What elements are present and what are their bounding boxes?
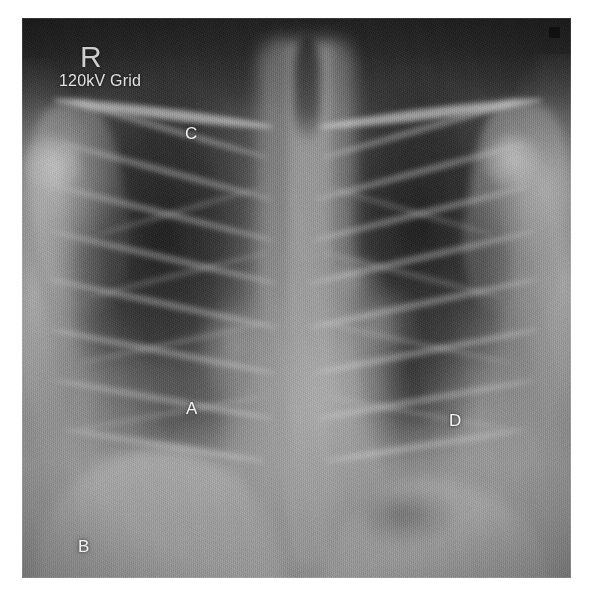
exposure-technique-label: 120kV Grid xyxy=(59,72,141,90)
gastric-bubble xyxy=(354,488,458,544)
exposure-index-corner-marker xyxy=(549,27,560,38)
annotation-label-c: C xyxy=(185,125,197,142)
right-hilum xyxy=(198,304,272,390)
screenshot-root: R 120kV Grid A B C D xyxy=(0,0,593,599)
annotation-label-d: D xyxy=(449,412,461,429)
annotation-label-b: B xyxy=(78,538,89,555)
trachea xyxy=(294,36,320,144)
side-marker-right: R xyxy=(80,40,102,74)
chest-xray-image: R 120kV Grid A B C D xyxy=(22,18,571,578)
left-hilum xyxy=(346,286,416,366)
annotation-label-a: A xyxy=(186,400,197,417)
